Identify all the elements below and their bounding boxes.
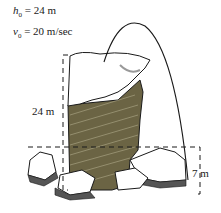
v0-label: v0 = 20 m/sec: [13, 26, 73, 40]
h0-label: h0 = 24 m: [13, 5, 56, 19]
cliff-height-label: 24 m: [32, 106, 54, 117]
cliff-height-dimension: [63, 55, 68, 190]
ledge-height-label: 7 m: [192, 168, 209, 179]
